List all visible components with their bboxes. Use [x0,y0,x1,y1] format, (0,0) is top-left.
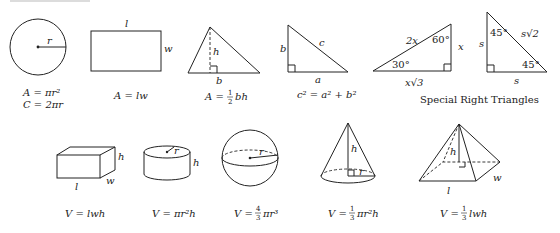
rectangle-shape [91,31,161,71]
rectangle-figure: l w A = lw [91,18,173,101]
cylinder-radius-line [167,147,174,152]
triangle-45-45-90-figure: 45° s√2 s 45° s [479,12,547,86]
right-angle-marker [348,170,354,176]
triangle-30-60-90-shape [373,24,451,71]
pyramid-fraction-numerator: 1 [462,205,466,213]
pyramid-formula-suffix: lwh [469,208,487,219]
sphere-fraction-denominator: 3 [256,214,260,222]
sphere-figure: r V = 4 3 πr³ [222,130,278,222]
cone-formula-suffix: πr²h [356,208,379,219]
cone-formula-prefix: V = [328,208,347,219]
triangle-height-label: h [213,46,219,57]
special-right-triangles-caption: Special Right Triangles [420,94,539,105]
box-width-label: w [106,175,115,186]
triangle-shape [188,27,260,73]
box-length-label: l [75,181,78,192]
cylinder-figure: r h V = πr²h [144,145,199,219]
circle-figure: r A = πr² C = 2πr [10,19,66,110]
box-volume-formula: V = lwh [65,208,105,219]
box-side-face [100,147,115,178]
pyramid-figure: h w l V = 1 3 lwh [419,124,502,222]
triangle-30-60-90-figure: 2x 60° x 30° x√3 [373,24,464,88]
leg-a-label: a [315,74,321,85]
right-triangle-shape [288,25,348,72]
cone-fraction-denominator: 3 [350,214,354,222]
sphere-formula-prefix: V = [234,208,253,219]
right-angle-marker [459,162,465,167]
pyramid-fraction-denominator: 3 [462,214,466,222]
bottom-leg-label: s [514,75,519,86]
cylinder-bottom [144,174,190,180]
triangle-formula-prefix: A = [204,91,224,102]
sphere-radius-label: r [259,146,265,157]
cone-height-label: h [351,143,357,154]
long-leg-label: x√3 [405,77,423,88]
triangle-fraction-denominator: 2 [228,98,232,106]
geometry-reference-sheet: r A = πr² C = 2πr l w A = lw h b A = 1 2… [0,0,560,233]
rectangular-box-figure: h w l V = lwh [57,147,124,219]
cone-left-side [321,123,348,176]
angle-60-label: 60° [432,34,450,45]
hypotenuse-label: s√2 [521,28,539,39]
hypotenuse-label: 2x [405,35,418,46]
triangle-formula-suffix: bh [235,91,248,102]
cone-radius-label: r [359,166,365,177]
cone-fraction-numerator: 1 [350,205,354,213]
sphere-fraction-numerator: 4 [256,205,261,213]
circle-circumference-formula: C = 2πr [23,99,64,110]
left-leg-label: s [479,38,484,49]
box-height-label: h [118,151,124,162]
right-angle-marker [210,66,217,73]
angle-45-right-label: 45° [522,59,540,70]
hypotenuse-c-label: c [319,37,325,48]
box-top-face [57,147,115,155]
triangle-base-label: b [216,75,222,86]
circle-area-formula: A = πr² [22,87,60,98]
pyramid-width-label: w [493,172,502,183]
right-triangle-figure: b c a c² = a² + b² [280,25,356,100]
triangle-figure: h b A = 1 2 bh [188,27,260,106]
sphere-formula-suffix: πr³ [262,208,278,219]
pyramid-formula-prefix: V = [440,208,459,219]
angle-45-top-label: 45° [490,27,508,38]
right-angle-marker [288,65,295,72]
triangle-fraction-numerator: 1 [228,89,232,97]
cone-figure: h r V = 1 3 πr²h [321,123,379,222]
cone-base-front [321,176,375,183]
circle-radius-label: r [47,35,53,46]
pyramid-length-label: l [447,185,450,196]
cylinder-volume-formula: V = πr²h [152,208,196,219]
rectangle-width-label: w [164,43,173,54]
box-front-face [57,155,100,178]
short-leg-label: x [458,41,464,52]
sphere-radius-line [250,155,278,158]
leg-b-label: b [280,43,286,54]
rectangle-length-label: l [125,18,128,29]
rectangle-area-formula: A = lw [113,90,148,101]
angle-30-label: 30° [392,59,410,70]
pyramid-height-label: h [450,146,456,157]
pythagorean-formula: c² = a² + b² [297,89,356,100]
cylinder-height-label: h [193,157,199,168]
right-angle-marker [487,65,494,72]
right-angle-marker [444,64,451,71]
